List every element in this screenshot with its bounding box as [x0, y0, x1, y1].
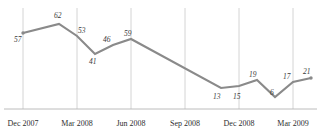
gridlines [23, 8, 293, 109]
endpoint-markers [21, 31, 312, 79]
data-label: 59 [124, 30, 132, 38]
data-label: 13 [213, 93, 221, 101]
line-chart: 57625341465913151961721 Dec 2007Mar 2008… [0, 0, 319, 137]
data-label: 15 [233, 93, 241, 101]
data-series [23, 24, 311, 97]
x-tick-label: Sep 2008 [155, 120, 215, 128]
chart-plot-area [0, 0, 319, 137]
x-tick-label: Dec 2007 [0, 120, 53, 128]
data-label: 17 [283, 73, 291, 81]
data-line-series-1 [23, 24, 311, 97]
x-tick-label: Dec 2008 [209, 120, 269, 128]
data-label: 46 [103, 36, 111, 44]
data-label: 6 [270, 89, 274, 97]
data-label: 62 [54, 12, 62, 20]
endpoint-dot [309, 76, 312, 79]
x-tick-label: Mar 2009 [263, 120, 319, 128]
data-label: 21 [303, 68, 311, 76]
data-label: 53 [78, 27, 86, 35]
x-tick-label: Jun 2008 [101, 120, 161, 128]
data-label: 41 [89, 58, 97, 66]
data-label: 19 [249, 71, 257, 79]
data-label: 57 [14, 36, 22, 44]
x-tick-label: Mar 2008 [47, 120, 107, 128]
